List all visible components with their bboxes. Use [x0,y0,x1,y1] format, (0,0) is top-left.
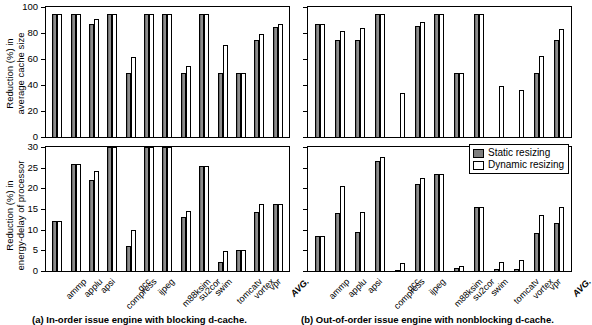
y-tick-mark [41,111,45,112]
bar-dynamic-compress [380,14,385,137]
bar-dynamic-ammp [320,236,325,271]
bar-dynamic-avg [278,24,283,137]
bar-dynamic-apsi [94,171,99,271]
bar-dynamic-tomcatv [223,251,228,271]
y-tick-mark [41,137,45,138]
bar-dynamic-vortex [241,73,246,137]
bar-dynamic-vortex [519,90,524,137]
bar-dynamic-ammp [320,24,325,137]
bar-dynamic-vpr [539,215,544,271]
legend: Static resizing Dynamic resizing [469,144,569,174]
chart-b-x-axis-labels: ammpappluapsicompressgccijpegm88ksimsu2c… [307,273,572,313]
y-tick-mark [41,85,45,86]
bar-dynamic-ammp [57,14,62,137]
y-tick-mark [41,188,45,189]
bar-group-apsi [355,7,365,137]
bar-dynamic-vpr [259,204,264,271]
bar-dynamic-applu [340,31,345,137]
bar-dynamic-m88ksim [439,14,444,137]
bar-group-ammp [315,147,325,271]
bar-group-su2cor [454,147,464,271]
bar-group-ijpeg [144,7,154,137]
bar-dynamic-applu [76,14,81,137]
caption-b: (b) Out-of-order issue engine with nonbl… [301,314,554,325]
bar-dynamic-swim [204,14,209,137]
bar-dynamic-ijpeg [420,22,425,137]
x-tick-label-avg: AVG. [570,276,592,298]
bar-group-vpr [254,7,264,137]
bar-group-gcc [395,7,405,137]
legend-item-static: Static resizing [473,147,564,159]
bar-dynamic-tomcatv [499,86,504,137]
x-tick-label-ijpeg: ijpeg [427,276,448,297]
bar-dynamic-ijpeg [420,178,425,271]
bar-group-su2cor [181,147,191,271]
bar-group-m88ksim [162,147,172,271]
bar-dynamic-applu [340,186,345,271]
bar-group-apsi [89,147,99,271]
y-tick-label: 60 [14,54,38,64]
bar-group-ammp [52,147,62,271]
bar-group-tomcatv [218,147,228,271]
bar-dynamic-compress [112,14,117,137]
bar-dynamic-m88ksim [167,147,172,271]
y-tick-label: 15 [14,204,38,214]
bar-group-swim [474,7,484,137]
chart-b-top-plot-area [307,6,572,138]
bar-dynamic-apsi [94,19,99,137]
panel-b: ammpappluapsicompressgccijpegm88ksimsu2c… [294,0,588,324]
y-tick-mark [41,7,45,8]
bar-group-applu [71,7,81,137]
bar-group-vortex [236,7,246,137]
bar-dynamic-gcc [131,57,136,137]
bar-dynamic-apsi [360,28,365,137]
bar-dynamic-applu [76,164,81,271]
y-tick-label: 20 [14,106,38,116]
bar-group-ijpeg [415,147,425,271]
chart-a-top-plot-area [45,6,290,138]
y-tick-mark [303,111,307,112]
y-tick-mark [41,230,45,231]
bar-group-vpr [534,7,544,137]
y-tick-mark [41,147,45,148]
bar-dynamic-compress [112,147,117,271]
y-tick-mark [303,250,307,251]
bar-group-m88ksim [434,7,444,137]
bar-dynamic-su2cor [459,73,464,137]
bar-dynamic-avg [559,207,564,271]
bar-group-vpr [254,147,264,271]
y-tick-label: 5 [14,245,38,255]
x-tick-label-apsi: apsi [99,276,118,295]
bar-group-applu [335,147,345,271]
y-tick-label: 0 [14,266,38,276]
bar-dynamic-tomcatv [499,262,504,271]
x-tick-label-apsi: apsi [365,276,384,295]
chart-a-x-axis-labels: ammpappluapsicompressgccijpegm88ksimsu2c… [45,273,290,313]
bar-dynamic-vpr [539,56,544,137]
y-tick-mark [41,59,45,60]
bar-group-container [46,7,289,137]
bar-group-container [46,147,289,271]
bar-group-avg [554,7,564,137]
legend-item-dynamic: Dynamic resizing [473,159,564,171]
y-tick-label: 25 [14,163,38,173]
y-tick-mark [303,230,307,231]
bar-dynamic-vortex [519,260,524,271]
bar-dynamic-swim [479,14,484,137]
bar-group-su2cor [454,7,464,137]
y-tick-mark [303,137,307,138]
bar-group-apsi [355,147,365,271]
y-tick-mark [303,188,307,189]
y-tick-mark [41,168,45,169]
y-tick-label: 30 [14,142,38,152]
y-tick-mark [303,209,307,210]
bar-group-ijpeg [415,7,425,137]
bar-dynamic-compress [380,157,385,271]
y-tick-mark [303,7,307,8]
bar-dynamic-ijpeg [149,147,154,271]
panel-a: Reduction (%) in average cache size Redu… [0,0,294,324]
bar-dynamic-avg [278,204,283,271]
bar-dynamic-m88ksim [439,174,444,271]
bar-group-su2cor [181,7,191,137]
legend-swatch-static-icon [473,149,484,158]
